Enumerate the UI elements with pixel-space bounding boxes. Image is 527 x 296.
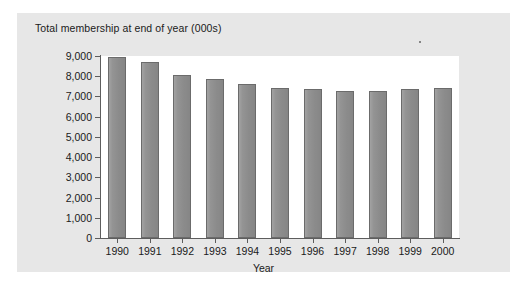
y-axis-tick-label: 6,000 bbox=[66, 112, 92, 122]
y-axis-tick-label: 7,000 bbox=[66, 91, 92, 101]
y-axis-tick bbox=[95, 56, 100, 57]
x-axis-tick-label: 1998 bbox=[361, 245, 395, 257]
y-axis-tick bbox=[95, 96, 100, 97]
x-axis-tick-label: 1995 bbox=[263, 245, 297, 257]
y-axis-tick bbox=[95, 177, 100, 178]
bar bbox=[108, 57, 126, 238]
y-axis-tick bbox=[95, 137, 100, 138]
bar bbox=[369, 91, 387, 238]
y-axis-tick bbox=[95, 238, 100, 239]
image-speck-artifact bbox=[419, 41, 421, 43]
y-axis-tick-label: 0 bbox=[86, 233, 92, 243]
x-axis-tick bbox=[215, 238, 216, 243]
x-axis-tick bbox=[182, 238, 183, 243]
x-axis-title-wrap: Year bbox=[0, 262, 527, 274]
bar bbox=[173, 75, 191, 238]
x-axis-labels: 1990199119921993199419951996199719981999… bbox=[0, 245, 527, 259]
y-axis-tick-label: 5,000 bbox=[66, 132, 92, 142]
x-axis-tick bbox=[410, 238, 411, 243]
y-axis-tick bbox=[95, 157, 100, 158]
y-axis-tick bbox=[95, 218, 100, 219]
x-axis-tick-label: 1992 bbox=[165, 245, 199, 257]
screenshot-root: Total membership at end of year (000s) 0… bbox=[0, 0, 527, 296]
x-axis-title: Year bbox=[253, 262, 274, 274]
x-axis-tick-label: 1997 bbox=[328, 245, 362, 257]
y-axis-tick-label: 9,000 bbox=[66, 51, 92, 61]
bar bbox=[206, 79, 224, 238]
x-axis-tick bbox=[378, 238, 379, 243]
x-axis-tick-label: 1994 bbox=[230, 245, 264, 257]
x-axis-tick-label: 1996 bbox=[296, 245, 330, 257]
bar bbox=[238, 84, 256, 238]
x-axis-tick bbox=[280, 238, 281, 243]
x-axis-tick bbox=[313, 238, 314, 243]
bar bbox=[434, 88, 452, 238]
x-axis-tick bbox=[345, 238, 346, 243]
y-axis-tick-label: 3,000 bbox=[66, 172, 92, 182]
y-axis-tick bbox=[95, 76, 100, 77]
bar bbox=[271, 88, 289, 238]
x-axis-tick bbox=[443, 238, 444, 243]
y-axis-tick-label: 2,000 bbox=[66, 193, 92, 203]
x-axis-tick bbox=[150, 238, 151, 243]
y-axis-tick bbox=[95, 198, 100, 199]
x-axis-tick-label: 1999 bbox=[393, 245, 427, 257]
bar-series bbox=[101, 56, 459, 238]
bar bbox=[304, 89, 322, 238]
cut-off-caption bbox=[0, 286, 527, 296]
x-axis-tick-label: 1990 bbox=[100, 245, 134, 257]
y-axis-tick bbox=[95, 117, 100, 118]
y-axis-tick-label: 4,000 bbox=[66, 152, 92, 162]
y-axis-tick-label: 1,000 bbox=[66, 213, 92, 223]
y-axis-tick-label: 8,000 bbox=[66, 71, 92, 81]
x-axis-tick-label: 1993 bbox=[198, 245, 232, 257]
bar bbox=[141, 62, 159, 238]
bar bbox=[401, 89, 419, 238]
bar bbox=[336, 91, 354, 238]
x-axis-tick-label: 2000 bbox=[426, 245, 460, 257]
x-axis-tick-label: 1991 bbox=[133, 245, 167, 257]
x-axis-tick bbox=[117, 238, 118, 243]
x-axis-tick bbox=[247, 238, 248, 243]
